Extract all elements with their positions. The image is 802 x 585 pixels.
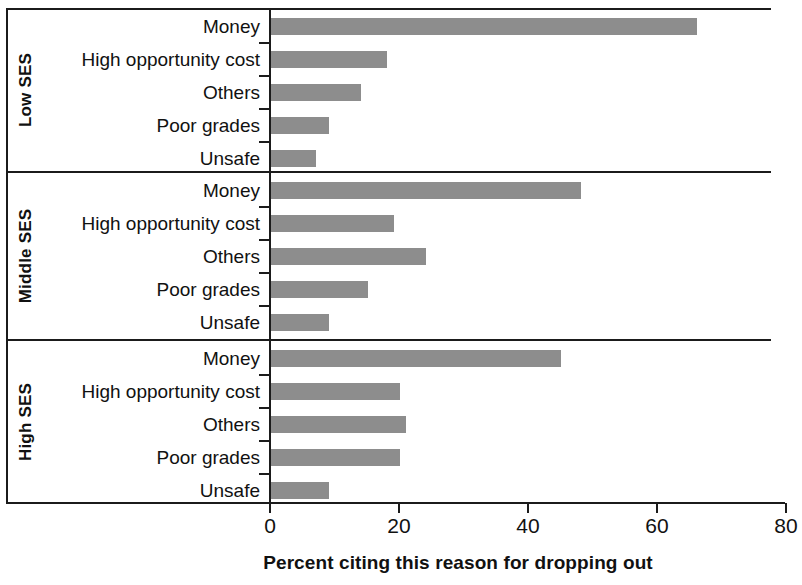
bar — [271, 281, 368, 298]
x-axis-tick-label: 40 — [498, 514, 558, 538]
category-label-cell: High opportunity cost — [0, 375, 269, 408]
category-label: High opportunity cost — [0, 382, 269, 401]
category-label-cell: Others — [0, 240, 269, 273]
category-label: Poor grades — [0, 448, 269, 467]
category-label-cell: Unsafe — [0, 142, 269, 175]
bar — [271, 350, 561, 367]
y-axis-tick — [259, 305, 269, 307]
category-label-cell: Others — [0, 408, 269, 441]
bar-row: Poor grades — [0, 109, 796, 142]
category-label: Others — [0, 415, 269, 434]
category-label-cell: High opportunity cost — [0, 43, 269, 76]
bar — [271, 117, 329, 134]
bar — [271, 383, 400, 400]
category-label-cell: Unsafe — [0, 474, 269, 507]
bar-row: Poor grades — [0, 441, 796, 474]
category-label: Poor grades — [0, 280, 269, 299]
bar-row: High opportunity cost — [0, 43, 796, 76]
x-axis-tick-label: 0 — [240, 514, 300, 538]
bar-row: High opportunity cost — [0, 375, 796, 408]
bar-row: Poor grades — [0, 273, 796, 306]
bar-row: Others — [0, 408, 796, 441]
x-axis-tick — [269, 503, 271, 513]
y-axis-tick — [259, 473, 269, 475]
category-label-cell: Poor grades — [0, 273, 269, 306]
bar — [271, 416, 406, 433]
bar — [271, 215, 394, 232]
bar-row: Others — [0, 76, 796, 109]
bar — [271, 182, 581, 199]
category-label-cell: High opportunity cost — [0, 207, 269, 240]
x-axis-title-text: Percent citing this reason for dropping … — [143, 552, 653, 574]
x-axis-title: Percent citing this reason for dropping … — [0, 552, 796, 574]
category-label: Unsafe — [0, 481, 269, 500]
category-label-cell: Money — [0, 10, 269, 43]
y-axis-tick — [259, 239, 269, 241]
bar-row: Unsafe — [0, 306, 796, 339]
category-label: Unsafe — [0, 313, 269, 332]
category-label: Money — [0, 181, 269, 200]
x-axis-tick — [398, 503, 400, 513]
x-axis-tick — [527, 503, 529, 513]
y-axis-tick — [259, 42, 269, 44]
bar — [271, 51, 387, 68]
bar — [271, 84, 361, 101]
bar — [271, 248, 426, 265]
category-label: Money — [0, 349, 269, 368]
bar-row: Others — [0, 240, 796, 273]
bar-row: Money — [0, 342, 796, 375]
category-label: Money — [0, 17, 269, 36]
category-label: Others — [0, 247, 269, 266]
x-axis-tick-label: 60 — [627, 514, 687, 538]
x-axis-tick — [785, 503, 787, 513]
bar — [271, 18, 697, 35]
bar — [271, 150, 316, 167]
y-axis-tick — [259, 272, 269, 274]
bar-row: Money — [0, 174, 796, 207]
category-label: Poor grades — [0, 116, 269, 135]
x-axis-tick-label: 20 — [369, 514, 429, 538]
bar — [271, 482, 329, 499]
x-axis-tick — [656, 503, 658, 513]
y-axis-tick — [259, 206, 269, 208]
category-label-cell: Unsafe — [0, 306, 269, 339]
y-axis-tick — [259, 407, 269, 409]
bar — [271, 314, 329, 331]
category-label-cell: Others — [0, 76, 269, 109]
y-axis-tick — [259, 374, 269, 376]
bar-row: Money — [0, 10, 796, 43]
category-label-cell: Poor grades — [0, 109, 269, 142]
bar-row: Unsafe — [0, 142, 796, 175]
y-axis-tick — [259, 108, 269, 110]
category-label-cell: Poor grades — [0, 441, 269, 474]
bar — [271, 449, 400, 466]
category-label-cell: Money — [0, 342, 269, 375]
group-divider-middle-high — [6, 339, 771, 341]
category-label: Others — [0, 83, 269, 102]
y-axis-tick — [259, 440, 269, 442]
x-axis-tick-label: 80 — [756, 514, 802, 538]
category-label-cell: Money — [0, 174, 269, 207]
y-axis-tick — [259, 75, 269, 77]
category-label: High opportunity cost — [0, 50, 269, 69]
bar-row: High opportunity cost — [0, 207, 796, 240]
category-label: Unsafe — [0, 149, 269, 168]
category-label: High opportunity cost — [0, 214, 269, 233]
y-axis-tick — [259, 141, 269, 143]
